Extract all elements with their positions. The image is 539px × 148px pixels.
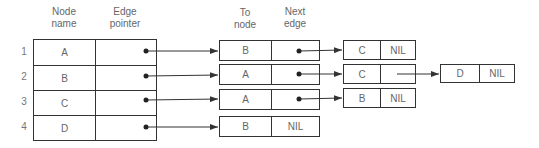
pointer-dot (144, 49, 149, 54)
pointer-dot (144, 125, 149, 130)
pointer-dot (144, 74, 149, 79)
pointer-dot (297, 72, 302, 77)
pointer-dot (297, 97, 302, 102)
pointer-dot (297, 49, 302, 54)
pointer-arrows (0, 0, 539, 148)
pointer-dot (144, 98, 149, 103)
